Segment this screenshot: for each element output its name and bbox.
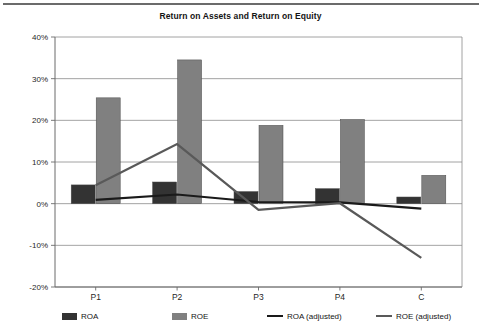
lines-group: [96, 144, 422, 258]
legend-item-roa-adjusted-[interactable]: ROA (adjusted): [267, 312, 342, 321]
bar-roe-c: [422, 175, 446, 203]
y-axis-tick-label: 40%: [32, 33, 48, 42]
x-axis-tick-label: P2: [172, 292, 183, 302]
legend-label: ROE: [191, 312, 208, 321]
chart-legend: ROAROEROA (adjusted)ROE (adjusted): [0, 306, 481, 326]
legend-label: ROE (adjusted): [396, 312, 451, 321]
x-axis-ticks-group: P1P2P3P4C: [90, 287, 424, 302]
bar-roa-c: [397, 197, 421, 204]
x-axis-tick-label: P4: [335, 292, 346, 302]
bar-roe-p2: [178, 60, 202, 204]
chart-container: Return on Assets and Return on Equity 40…: [0, 0, 481, 333]
y-axis-tick-label: -10%: [29, 241, 48, 250]
y-axis-ticks-group: 40%30%20%10%0%-10%-20%: [29, 33, 55, 292]
legend-item-roe-adjusted-[interactable]: ROE (adjusted): [376, 312, 451, 321]
bar-roa-p2: [153, 182, 177, 204]
bar-roa-p1: [71, 185, 95, 204]
bar-roe-p4: [340, 120, 364, 204]
legend-item-roa[interactable]: ROA: [62, 312, 98, 321]
bar-roe-p1: [96, 98, 120, 204]
bars-group: [71, 60, 446, 204]
bar-roe-p3: [259, 125, 283, 203]
legend-label: ROA (adjusted): [287, 312, 342, 321]
chart-plot-area: 40%30%20%10%0%-10%-20% P1P2P3P4C: [0, 0, 481, 333]
y-axis-tick-label: -20%: [29, 283, 48, 292]
x-axis-tick-label: P1: [90, 292, 101, 302]
x-axis-tick-label: P3: [253, 292, 264, 302]
y-axis-tick-label: 20%: [32, 116, 48, 125]
legend-swatch-line-icon: [267, 315, 283, 318]
legend-item-roe[interactable]: ROE: [172, 312, 208, 321]
legend-swatch-bar-icon: [62, 313, 77, 320]
y-axis-tick-label: 0%: [36, 200, 48, 209]
x-axis-tick-label: C: [418, 292, 424, 302]
line-roa-adjusted-: [96, 195, 422, 209]
legend-label: ROA: [81, 312, 98, 321]
y-axis-tick-label: 10%: [32, 158, 48, 167]
y-axis-tick-label: 30%: [32, 75, 48, 84]
legend-swatch-bar-icon: [172, 313, 187, 320]
legend-swatch-line-icon: [376, 315, 392, 318]
